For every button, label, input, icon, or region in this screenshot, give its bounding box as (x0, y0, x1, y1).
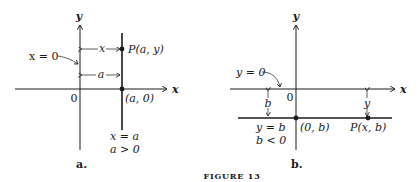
distance-left-label: b (264, 97, 271, 110)
distance-top-label: x (99, 42, 106, 55)
panel-a: x a x = 0 y x 0 P(a, y) (a, 0) x = a a >… (15, 10, 179, 171)
origin-label: 0 (71, 92, 78, 105)
axis-line-label: x = 0 (29, 50, 58, 63)
condition-label: b < 0 (256, 134, 286, 147)
x-axis-label: x (171, 83, 179, 96)
distance-bottom-label: a (98, 68, 105, 81)
point-label: P(x, b) (349, 121, 386, 134)
x-axis-label: x (399, 83, 407, 96)
figure-13: x a x = 0 y x 0 P(a, y) (a, 0) x = a a >… (0, 0, 419, 182)
intercept-point (120, 87, 125, 92)
point-p (120, 47, 125, 52)
panel-label: b. (291, 158, 303, 171)
horizontal-line-label: y = b (255, 121, 285, 134)
intercept-label: (0, b) (300, 121, 330, 134)
point-p (366, 116, 371, 121)
panel-label: a. (76, 158, 87, 171)
distance-right-label: y (363, 97, 371, 110)
origin-label: 0 (287, 91, 294, 104)
y-axis-label: y (292, 10, 301, 23)
axis-line-label: y = 0 (235, 66, 265, 79)
intercept-point (294, 116, 299, 121)
y-axis-label: y (75, 10, 84, 23)
panel-b: b y y = 0 y x 0 (0, b) P(x, b) y = b b <… (230, 10, 407, 171)
condition-label: a > 0 (110, 143, 140, 156)
point-label: P(a, y) (127, 43, 164, 56)
intercept-label: (a, 0) (125, 92, 154, 105)
vertical-line-label: x = a (110, 130, 139, 143)
figure-caption: FIGURE 13 (203, 171, 260, 181)
